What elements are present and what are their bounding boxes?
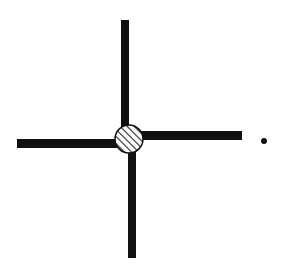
hatched-node-icon [115, 125, 143, 153]
top-bar [121, 20, 129, 132]
right-bar [136, 131, 242, 140]
bottom-bar [128, 146, 136, 258]
junction-diagram [0, 0, 298, 268]
left-bar [17, 139, 121, 148]
isolated-dot-icon [261, 138, 267, 144]
